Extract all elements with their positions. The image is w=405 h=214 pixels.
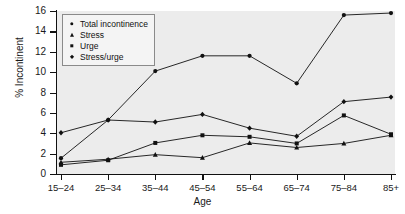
legend-label: Stress/urge: [80, 52, 123, 62]
diamond-marker-icon: [67, 52, 77, 62]
series-layer: [0, 0, 405, 214]
legend-label: Urge: [80, 41, 98, 51]
legend-label: Total incontinence: [80, 19, 148, 29]
circle-marker-icon: [67, 19, 77, 29]
legend-item-urge: Urge: [67, 40, 148, 51]
triangle-marker-icon: [67, 30, 77, 40]
legend-label: Stress: [80, 30, 104, 40]
chart-legend: Total incontinence Stress Urge Stress/ur…: [62, 14, 155, 66]
legend-item-total-incontinence: Total incontinence: [67, 18, 148, 29]
square-marker-icon: [67, 41, 77, 51]
x-axis-title: Age: [0, 196, 405, 207]
legend-item-stress: Stress: [67, 29, 148, 40]
incontinence-line-chart: % Incontinent 0246810121416 15–2425–3435…: [0, 0, 405, 214]
legend-item-stress-urge: Stress/urge: [67, 51, 148, 62]
